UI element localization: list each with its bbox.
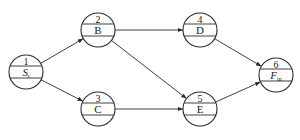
node-number: 1	[24, 56, 29, 67]
node-2: 2B	[81, 13, 115, 47]
node-label-main: B	[94, 24, 101, 36]
edge-1-to-2	[41, 39, 84, 64]
node-label: C	[94, 103, 101, 115]
diagram-svg: 1St2B3C4D5E6Fin	[0, 0, 300, 140]
node-number: 5	[198, 93, 203, 104]
edge-2-to-5	[111, 40, 186, 98]
network-diagram: 1St2B3C4D5E6Fin	[0, 0, 300, 140]
node-label: B	[94, 24, 101, 36]
node-label: D	[196, 24, 204, 36]
node-label-subscript: in	[277, 76, 282, 82]
edge-1-to-3	[41, 80, 83, 101]
edges-layer	[41, 30, 262, 109]
node-6: 6Fin	[259, 58, 293, 92]
node-label-main: E	[197, 103, 204, 115]
node-4: 4D	[183, 13, 217, 47]
node-number: 4	[198, 14, 203, 25]
node-label-main: C	[94, 103, 101, 115]
edge-4-to-6	[215, 39, 262, 67]
edge-5-to-6	[216, 82, 261, 102]
node-1: 1St	[9, 55, 43, 89]
node-number: 6	[274, 59, 279, 70]
node-5: 5E	[183, 92, 217, 126]
node-label-main: D	[196, 24, 204, 36]
node-3: 3C	[81, 92, 115, 126]
node-number: 3	[96, 93, 101, 104]
node-number: 2	[96, 14, 101, 25]
node-label: E	[197, 103, 204, 115]
